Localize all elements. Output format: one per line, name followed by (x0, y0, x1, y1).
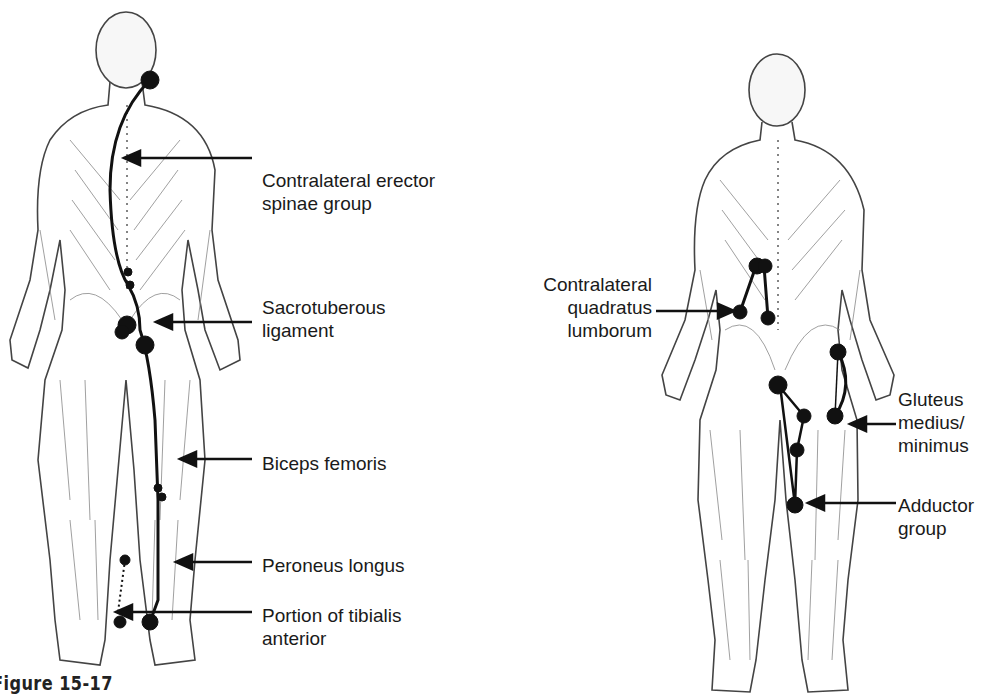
label-adductor-group: Adductor group (898, 494, 974, 540)
right-body-figure (662, 54, 894, 692)
label-biceps-femoris: Biceps femoris (262, 452, 387, 475)
label-erector-spinae: Contralateral erector spinae group (262, 169, 435, 215)
label-sacrotuberous-ligament: Sacrotuberous ligament (262, 296, 386, 342)
label-gluteus-medius-minimus: Gluteus medius/ minimus (898, 388, 969, 457)
label-peroneus-longus: Peroneus longus (262, 554, 405, 577)
label-tibialis-anterior: Portion of tibialis anterior (262, 604, 401, 650)
label-quadratus-lumborum: Contralateral quadratus lumborum (514, 273, 652, 342)
right-sling-line (733, 258, 846, 513)
figure-caption: Figure 15-17 (0, 672, 113, 694)
left-pointer-arrows (116, 151, 252, 619)
anatomy-illustration (0, 0, 1002, 700)
